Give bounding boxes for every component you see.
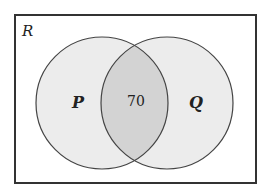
- venn-diagram: R P Q 70: [0, 0, 269, 191]
- intersection-value: 70: [127, 93, 145, 109]
- universe-label: R: [21, 22, 33, 40]
- set-q-label: Q: [189, 93, 203, 112]
- set-p-label: P: [71, 93, 85, 112]
